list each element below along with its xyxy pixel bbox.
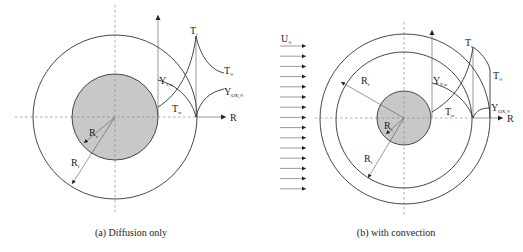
label-fuel-mass-fraction: YF,w	[159, 75, 174, 88]
combustion-diagram: Tf T∞ YF,w YOX,∞ Tw R Rs Rf (a) Diffusio…	[0, 0, 523, 252]
temperature-profile-inner	[158, 36, 196, 107]
oxidizer-mass-fraction-profile	[473, 108, 490, 118]
label-ambient-temperature: T∞	[224, 65, 234, 77]
temperature-profile-outer	[196, 36, 224, 73]
panel-a-diffusion-only: Tf T∞ YF,w YOX,∞ Tw R Rs Rf (a) Diffusio…	[15, 5, 244, 239]
label-wall-temperature: Tw	[172, 103, 182, 115]
oxidizer-mass-fraction-profile	[196, 89, 224, 117]
freestream-arrows	[280, 46, 306, 189]
label-flame-temperature: Tf	[465, 37, 473, 49]
label-flame-radius: Rf	[71, 157, 80, 169]
label-wall-temperature: Tw	[445, 106, 455, 118]
panel-b-with-convection: U∞ Tf T∞ YF,w YOX,∞ Tw R Rf	[280, 22, 514, 239]
label-freestream-velocity: U∞	[281, 33, 292, 45]
caption-b: (b) with convection	[357, 227, 435, 239]
caption-a: (a) Diffusion only	[95, 227, 167, 239]
label-oxidizer-mass-fraction: YOX,∞	[224, 86, 244, 99]
label-radial-axis: R	[230, 112, 237, 123]
label-flame-radius: Rf	[364, 153, 373, 165]
label-flame-radius-upstream: Rf	[361, 75, 370, 87]
label-flame-temperature: Tf	[190, 25, 198, 37]
label-ambient-temperature: T∞	[493, 70, 503, 82]
label-radial-axis: R	[507, 113, 514, 124]
label-fuel-mass-fraction: YF,w	[433, 75, 448, 88]
